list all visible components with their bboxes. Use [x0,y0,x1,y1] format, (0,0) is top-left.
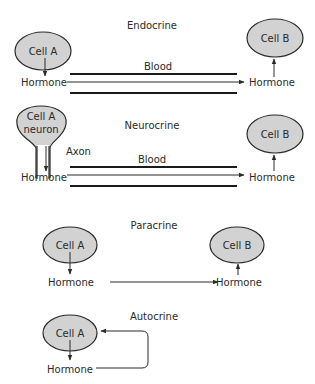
blood-label: Blood [138,154,166,165]
hormone-label-target: Hormone [249,77,295,88]
panel-autocrine: Autocrine Cell A Hormone [43,311,178,375]
hormone-label-source: Hormone [47,364,93,375]
cell-b-paracrine: Cell B [210,227,264,263]
panel-endocrine: Endocrine Cell A Hormone Blood Cell B Ho… [15,19,303,93]
cell-b-label: Cell B [261,33,290,44]
hormone-label-source: Hormone [48,277,94,288]
panel-title-paracrine: Paracrine [131,220,178,231]
cell-a-label: Cell A [56,240,85,251]
neuron-cell: Cell A neuron [17,106,66,179]
cell-b-label: Cell B [223,240,252,251]
neuron-label-line2: neuron [23,124,58,135]
panel-paracrine: Paracrine Cell A Hormone Cell B Hormone [43,220,264,288]
panel-title-endocrine: Endocrine [127,20,177,31]
hormone-label-target: Hormone [249,172,295,183]
panel-neurocrine: Neurocrine Cell A neuron Axon Hormone Bl… [17,106,303,186]
blood-label: Blood [144,61,172,72]
panel-title-neurocrine: Neurocrine [125,120,180,131]
cell-a-label: Cell A [56,328,85,339]
signaling-diagram: Endocrine Cell A Hormone Blood Cell B Ho… [0,0,315,384]
hormone-label-target: Hormone [216,277,262,288]
cell-a-endocrine: Cell A [15,32,71,70]
autocrine-feedback-loop [96,331,148,368]
neuron-label-line1: Cell A [27,111,56,122]
hormone-label-source: Hormone [21,77,67,88]
panel-title-autocrine: Autocrine [130,311,178,322]
cell-a-label: Cell A [29,46,58,57]
cell-b-label: Cell B [261,129,290,140]
cell-b-endocrine: Cell B [247,19,303,57]
hormone-label-source: Hormone [21,172,67,183]
axon-label: Axon [66,146,91,157]
cell-b-neurocrine: Cell B [247,115,303,153]
